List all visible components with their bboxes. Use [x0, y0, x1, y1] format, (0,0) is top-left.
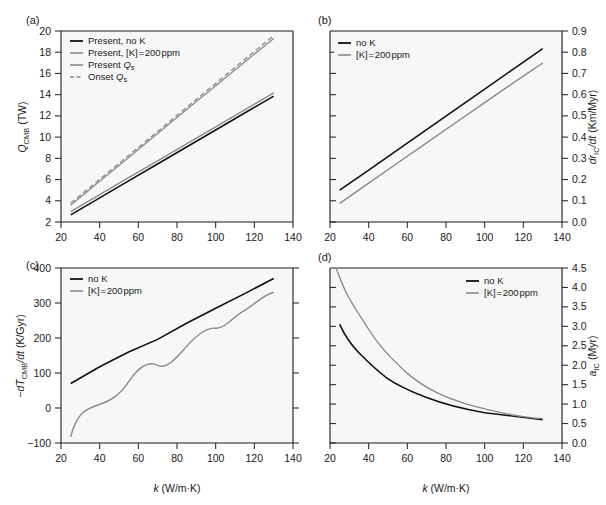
svg-text:20: 20 [55, 231, 67, 243]
svg-text:40: 40 [94, 231, 106, 243]
panel-c-ylabel: −dTCMB/dt (K/Gyr) [14, 314, 29, 398]
panel-a-y-ticks: 2 4 6 8 10 12 14 16 18 20 [39, 25, 61, 228]
svg-text:0.1: 0.1 [572, 194, 587, 206]
panel-c-y-right-ticks [293, 268, 299, 443]
svg-text:400: 400 [33, 262, 51, 274]
panel-a-ylabel: QCMB (TW) [16, 101, 31, 152]
panel-c: (c) −100 0 100 200 300 400 [14, 259, 302, 494]
panel-b-ylabel: drIC/dt (Km/Myr) [586, 90, 601, 165]
svg-text:80: 80 [440, 452, 452, 464]
svg-text:8: 8 [45, 152, 51, 164]
svg-text:140: 140 [284, 231, 302, 243]
svg-text:80: 80 [440, 231, 452, 243]
svg-text:100: 100 [476, 231, 494, 243]
svg-text:20: 20 [324, 231, 336, 243]
panel-d-y-ticks: 0.0 0.5 1.0 1.5 2.0 2.5 3.0 3.5 4.0 4.5 [562, 262, 587, 449]
panel-c-xlabel: k (W/m·K) [153, 482, 200, 494]
svg-text:40: 40 [94, 452, 106, 464]
svg-text:60: 60 [132, 452, 144, 464]
svg-text:40: 40 [363, 231, 375, 243]
svg-text:20: 20 [324, 452, 336, 464]
panel-a-x-ticks: 20 40 60 80 100 120 140 [55, 222, 302, 243]
panel-c-legend-label-0: no K [88, 273, 108, 284]
svg-text:120: 120 [246, 452, 264, 464]
svg-text:0.5: 0.5 [572, 417, 587, 429]
multi-panel-figure: (a) 2 4 6 8 10 12 14 16 18 20 20 [0, 0, 606, 505]
svg-text:3.5: 3.5 [572, 300, 587, 312]
svg-text:0.2: 0.2 [572, 173, 587, 185]
panel-d-xlabel: k (W/m·K) [422, 482, 469, 494]
svg-text:1.5: 1.5 [572, 378, 587, 390]
svg-text:6: 6 [45, 173, 51, 185]
svg-text:60: 60 [401, 231, 413, 243]
svg-text:300: 300 [33, 297, 51, 309]
panel-a: (a) 2 4 6 8 10 12 14 16 18 20 20 [16, 14, 302, 243]
svg-text:0.6: 0.6 [572, 88, 587, 100]
panel-d: (d) 0.0 0.5 1.0 1.5 2.0 2.5 3.0 3.5 4.0 … [318, 251, 601, 494]
svg-text:0: 0 [45, 402, 51, 414]
svg-text:0.3: 0.3 [572, 152, 587, 164]
svg-text:−100: −100 [27, 437, 51, 449]
svg-text:120: 120 [246, 231, 264, 243]
svg-text:12: 12 [39, 109, 51, 121]
svg-text:0.7: 0.7 [572, 67, 587, 79]
panel-b-label: (b) [318, 14, 331, 26]
panel-b: (b) 0.0 0.1 0.2 0.3 0.4 0.5 0.6 0.7 0.8 … [318, 14, 601, 243]
svg-text:2: 2 [45, 216, 51, 228]
svg-text:0.4: 0.4 [572, 131, 587, 143]
panel-a-label: (a) [26, 14, 39, 26]
svg-text:80: 80 [171, 231, 183, 243]
svg-text:20: 20 [55, 452, 67, 464]
svg-text:40: 40 [363, 452, 375, 464]
panel-d-legend-label-0: no K [484, 275, 504, 286]
svg-text:0.5: 0.5 [572, 109, 587, 121]
panel-b-legend-label-0: no K [356, 37, 376, 48]
svg-text:100: 100 [207, 452, 225, 464]
svg-text:120: 120 [515, 452, 533, 464]
svg-text:140: 140 [553, 452, 571, 464]
panel-b-x-ticks: 20 40 60 80 100 120 140 [324, 222, 571, 243]
svg-text:120: 120 [515, 231, 533, 243]
svg-text:0.9: 0.9 [572, 25, 587, 37]
panel-b-legend-label-1: [K] = 200 ppm [356, 49, 410, 60]
svg-text:60: 60 [132, 231, 144, 243]
svg-text:1.0: 1.0 [572, 398, 587, 410]
svg-text:200: 200 [33, 332, 51, 344]
panel-c-legend: no K [K] = 200 ppm [66, 272, 161, 298]
svg-text:16: 16 [39, 67, 51, 79]
svg-text:4.5: 4.5 [572, 262, 587, 274]
svg-text:10: 10 [39, 131, 51, 143]
svg-text:100: 100 [476, 452, 494, 464]
panel-c-y-ticks: −100 0 100 200 300 400 [27, 262, 61, 449]
panel-c-legend-label-1: [K] = 200 ppm [88, 285, 142, 296]
svg-text:4.0: 4.0 [572, 281, 587, 293]
panel-d-ylabel: aIC (Myr) [586, 336, 601, 377]
svg-text:18: 18 [39, 46, 51, 58]
svg-text:0.8: 0.8 [572, 46, 587, 58]
svg-text:14: 14 [39, 88, 51, 100]
panel-b-legend: no K [K] = 200 ppm [334, 36, 429, 62]
panel-a-legend-label-1: Present, [K] = 200 ppm [88, 47, 180, 58]
panel-d-label: (d) [318, 251, 331, 263]
panel-d-x-ticks: 20 40 60 80 100 120 140 [324, 443, 571, 464]
panel-d-legend-label-1: [K] = 200 ppm [484, 287, 538, 298]
svg-text:4: 4 [45, 194, 51, 206]
svg-text:2.5: 2.5 [572, 339, 587, 351]
svg-text:0.0: 0.0 [572, 437, 587, 449]
svg-text:140: 140 [553, 231, 571, 243]
svg-text:100: 100 [207, 231, 225, 243]
svg-text:3.0: 3.0 [572, 320, 587, 332]
svg-text:140: 140 [284, 452, 302, 464]
svg-text:2.0: 2.0 [572, 359, 587, 371]
panel-c-x-ticks: 20 40 60 80 100 120 140 [55, 443, 302, 464]
panel-a-legend: Present, no K Present, [K] = 200 ppm Pre… [66, 34, 200, 84]
panel-b-y-ticks: 0.0 0.1 0.2 0.3 0.4 0.5 0.6 0.7 0.8 0.9 [562, 25, 587, 228]
svg-text:20: 20 [39, 25, 51, 37]
figure-container: (a) 2 4 6 8 10 12 14 16 18 20 20 [0, 0, 606, 505]
panel-a-legend-label-0: Present, no K [88, 35, 146, 46]
svg-text:60: 60 [401, 452, 413, 464]
svg-text:80: 80 [171, 452, 183, 464]
svg-text:0.0: 0.0 [572, 216, 587, 228]
svg-text:100: 100 [33, 367, 51, 379]
panel-d-legend: no K [K] = 200 ppm [462, 274, 558, 300]
